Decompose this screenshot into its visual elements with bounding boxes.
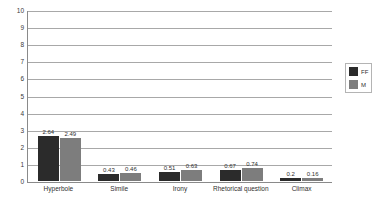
bar-group: 0.430.46 xyxy=(90,11,151,181)
y-axis-tick-label: 9 xyxy=(20,25,24,32)
bar-value-label: 0.43 xyxy=(103,167,115,173)
bar-group: 2.642.49 xyxy=(29,11,90,181)
x-axis-category-label: Rhetorical question xyxy=(210,186,271,193)
bar-group-container: 2.642.490.430.460.510.630.670.740.20.16 xyxy=(29,11,332,181)
x-axis-category-label: Irony xyxy=(150,186,211,193)
y-axis-tick-label: 6 xyxy=(20,76,24,83)
legend-label: M xyxy=(361,82,366,88)
x-axis-category-label: Climax xyxy=(271,186,332,193)
bar-value-label: 2.49 xyxy=(64,131,76,137)
x-axis-category-label: Hyperbole xyxy=(28,186,89,193)
bar-value-label: 0.46 xyxy=(125,166,137,172)
bar-m-climax xyxy=(302,178,323,181)
bar-m-hyperbole xyxy=(60,138,81,181)
y-axis-tick-label: 10 xyxy=(17,8,24,15)
y-axis-tick-label: 7 xyxy=(20,59,24,66)
bar-slot: 0.67 xyxy=(220,11,241,181)
bar-group: 0.510.63 xyxy=(150,11,211,181)
bar-value-label: 0.2 xyxy=(287,171,295,177)
bar-m-rhetorical-question xyxy=(242,168,263,181)
bar-slot: 0.51 xyxy=(159,11,180,181)
legend-item-ff[interactable]: FF xyxy=(349,67,368,76)
bar-slot: 0.43 xyxy=(98,11,119,181)
bar-group: 0.20.16 xyxy=(271,11,332,181)
bar-ff-rhetorical-question xyxy=(220,170,241,181)
y-axis-tick-label: 2 xyxy=(20,145,24,152)
bar-ff-irony xyxy=(159,172,180,181)
bar-slot: 0.46 xyxy=(120,11,141,181)
y-axis-tick-label: 5 xyxy=(20,93,24,100)
bar-value-label: 2.64 xyxy=(42,129,54,135)
y-axis-tick-label: 3 xyxy=(20,127,24,134)
bar-value-label: 0.51 xyxy=(164,165,176,171)
y-axis-tick-label: 8 xyxy=(20,42,24,49)
plot-area: 012345678910 2.642.490.430.460.510.630.6… xyxy=(27,11,332,183)
bar-chart: 012345678910 2.642.490.430.460.510.630.6… xyxy=(0,0,385,209)
chart-legend: FFM xyxy=(345,63,372,93)
legend-swatch-icon xyxy=(349,80,358,89)
bar-value-label: 0.74 xyxy=(246,161,258,167)
y-axis-tick-label: 4 xyxy=(20,110,24,117)
bar-slot: 2.64 xyxy=(38,11,59,181)
y-axis-tick-label: 0 xyxy=(20,179,24,186)
bar-m-irony xyxy=(181,170,202,181)
legend-item-m[interactable]: M xyxy=(349,80,368,89)
x-axis-category-labels: HyperboleSimileIronyRhetorical questionC… xyxy=(28,186,332,193)
bar-slot: 0.2 xyxy=(280,11,301,181)
x-axis-category-label: Simile xyxy=(89,186,150,193)
bar-ff-hyperbole xyxy=(38,136,59,181)
bar-slot: 2.49 xyxy=(60,11,81,181)
bar-slot: 0.74 xyxy=(242,11,263,181)
legend-label: FF xyxy=(361,69,368,75)
bar-ff-climax xyxy=(280,178,301,181)
bar-value-label: 0.16 xyxy=(307,171,319,177)
bar-slot: 0.63 xyxy=(181,11,202,181)
legend-swatch-icon xyxy=(349,67,358,76)
y-axis-tick-label: 1 xyxy=(20,162,24,169)
bar-m-simile xyxy=(120,173,141,181)
bar-value-label: 0.63 xyxy=(186,163,198,169)
bar-group: 0.670.74 xyxy=(211,11,272,181)
bar-ff-simile xyxy=(98,174,119,181)
bar-slot: 0.16 xyxy=(302,11,323,181)
bar-value-label: 0.67 xyxy=(224,163,236,169)
